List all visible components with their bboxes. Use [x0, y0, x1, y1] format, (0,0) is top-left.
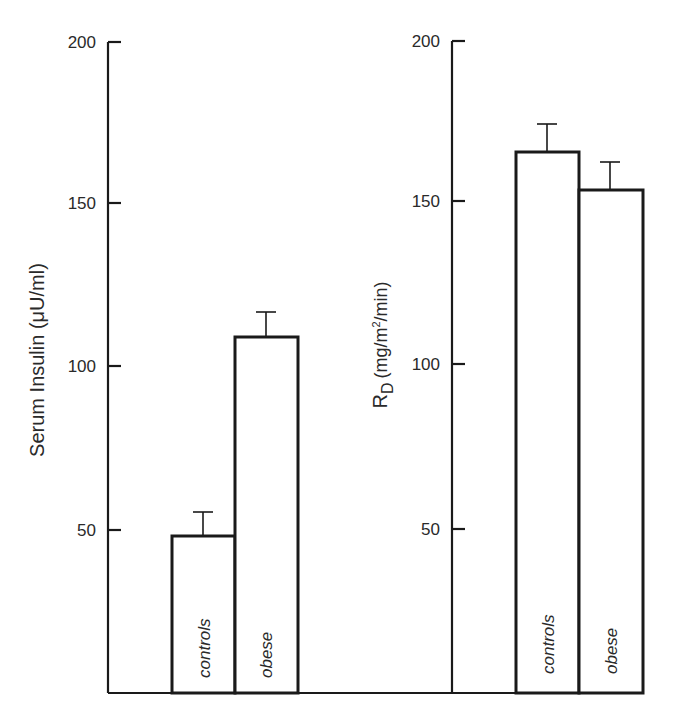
y-tick-label-100: 100 [412, 355, 440, 374]
panel-rd: 200 150 100 50 RD(mg/m2/min) controls ob… [369, 32, 643, 693]
y-axis-label-rd: RD(mg/m2/min) [369, 281, 396, 408]
y-axis-label-serum-insulin: Serum Insulin (μU/ml) [26, 263, 48, 457]
category-label-controls: controls [539, 614, 558, 674]
category-label-obese: obese [602, 628, 621, 674]
category-label-obese: obese [257, 632, 276, 678]
panel-serum-insulin: 200 150 100 50 Serum Insulin (μU/ml) con… [26, 33, 298, 693]
bar-rd-controls [516, 152, 579, 693]
y-tick-label-200: 200 [68, 33, 96, 52]
y-tick-label-150: 150 [68, 194, 96, 213]
bar-rd-obese [579, 190, 643, 693]
category-label-controls: controls [195, 618, 214, 678]
y-tick-label-200: 200 [412, 32, 440, 51]
y-tick-label-50: 50 [77, 521, 96, 540]
y-tick-label-50: 50 [421, 520, 440, 539]
y-tick-label-150: 150 [412, 192, 440, 211]
figure: 200 150 100 50 Serum Insulin (μU/ml) con… [0, 0, 677, 720]
y-tick-label-100: 100 [68, 357, 96, 376]
